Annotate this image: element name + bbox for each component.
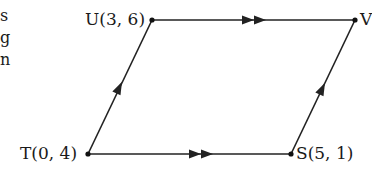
vertex-v-dot bbox=[352, 17, 357, 22]
vertex-s-label: S(5, 1) bbox=[296, 145, 353, 162]
arrow-icon-right bbox=[315, 81, 329, 97]
vertex-t-dot bbox=[85, 151, 90, 156]
text-fragment-1: s bbox=[0, 8, 8, 24]
vertex-u-label: U(3, 6) bbox=[85, 11, 145, 28]
vertex-u-dot bbox=[149, 17, 154, 22]
text-fragment-2: g bbox=[0, 30, 10, 46]
vertex-s-dot bbox=[288, 151, 293, 156]
double-arrow-icon-top bbox=[242, 16, 266, 25]
text-fragment-3: n bbox=[0, 52, 10, 68]
arrow-icon-left bbox=[112, 80, 126, 96]
vertex-t-label: T(0, 4) bbox=[20, 145, 77, 162]
vertex-v-label: V bbox=[360, 11, 372, 28]
double-arrow-icon-bottom bbox=[189, 150, 213, 159]
